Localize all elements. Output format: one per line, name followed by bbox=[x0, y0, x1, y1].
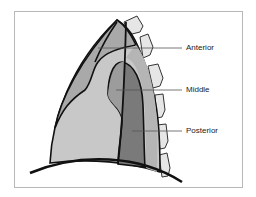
label-middle: Middle bbox=[186, 85, 210, 95]
label-anterior: Anterior bbox=[186, 43, 214, 53]
mediastinum-diagram bbox=[0, 0, 256, 197]
label-posterior: Posterior bbox=[186, 126, 218, 136]
